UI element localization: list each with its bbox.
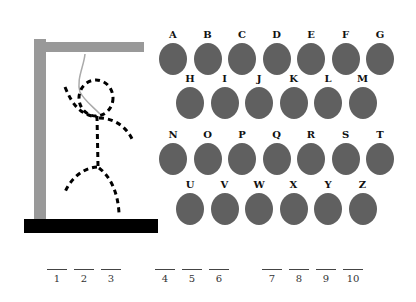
slot-underline bbox=[262, 269, 282, 270]
letter-button[interactable] bbox=[314, 193, 342, 225]
letter-key-k[interactable]: K bbox=[279, 72, 309, 119]
letter-key-z[interactable]: Z bbox=[348, 178, 378, 225]
letter-button[interactable] bbox=[228, 43, 256, 75]
letter-label: G bbox=[365, 28, 395, 41]
letter-key-x[interactable]: X bbox=[279, 178, 309, 225]
letter-key-h[interactable]: H bbox=[175, 72, 205, 119]
stick-leg-right bbox=[99, 168, 119, 213]
slot-underline bbox=[343, 269, 363, 270]
letter-button[interactable] bbox=[228, 143, 256, 175]
letter-label: N bbox=[158, 128, 188, 141]
letter-button[interactable] bbox=[245, 87, 273, 119]
letter-key-e[interactable]: E bbox=[296, 28, 326, 75]
letter-key-r[interactable]: R bbox=[296, 128, 326, 175]
letter-key-t[interactable]: T bbox=[365, 128, 395, 175]
letter-key-c[interactable]: C bbox=[227, 28, 257, 75]
letter-label: Q bbox=[262, 128, 292, 141]
letter-label: R bbox=[296, 128, 326, 141]
letter-button[interactable] bbox=[349, 193, 377, 225]
letter-button[interactable] bbox=[263, 143, 291, 175]
letter-label: I bbox=[210, 72, 240, 85]
letter-button[interactable] bbox=[314, 87, 342, 119]
answer-slot: 3 bbox=[101, 269, 121, 284]
slot-underline bbox=[316, 269, 336, 270]
letter-label: U bbox=[175, 178, 205, 191]
letter-key-m[interactable]: M bbox=[348, 72, 378, 119]
gallows-base bbox=[24, 219, 158, 233]
slot-underline bbox=[101, 269, 121, 270]
slot-number: 4 bbox=[155, 273, 175, 284]
letter-button[interactable] bbox=[297, 43, 325, 75]
letter-label: W bbox=[244, 178, 274, 191]
letter-button[interactable] bbox=[211, 193, 239, 225]
letter-button[interactable] bbox=[194, 143, 222, 175]
letter-button[interactable] bbox=[159, 143, 187, 175]
letter-key-j[interactable]: J bbox=[244, 72, 274, 119]
letter-key-a[interactable]: A bbox=[158, 28, 188, 75]
letter-key-y[interactable]: Y bbox=[313, 178, 343, 225]
letter-key-w[interactable]: W bbox=[244, 178, 274, 225]
letter-label: S bbox=[331, 128, 361, 141]
letter-label: M bbox=[348, 72, 378, 85]
letter-key-b[interactable]: B bbox=[193, 28, 223, 75]
letter-label: O bbox=[193, 128, 223, 141]
slot-number: 7 bbox=[262, 273, 282, 284]
letter-label: H bbox=[175, 72, 205, 85]
letter-button[interactable] bbox=[176, 193, 204, 225]
letter-button[interactable] bbox=[349, 87, 377, 119]
letter-key-q[interactable]: Q bbox=[262, 128, 292, 175]
stick-leg-left bbox=[65, 167, 97, 192]
letter-button[interactable] bbox=[366, 143, 394, 175]
answer-slot: 9 bbox=[316, 269, 336, 284]
letter-label: L bbox=[313, 72, 343, 85]
slot-number: 5 bbox=[182, 273, 202, 284]
slot-underline bbox=[289, 269, 309, 270]
letter-label: K bbox=[279, 72, 309, 85]
letter-button[interactable] bbox=[332, 43, 360, 75]
gallows-beam bbox=[38, 42, 144, 52]
letter-label: Z bbox=[348, 178, 378, 191]
letter-label: A bbox=[158, 28, 188, 41]
letter-key-d[interactable]: D bbox=[262, 28, 292, 75]
letter-button[interactable] bbox=[366, 43, 394, 75]
letter-key-i[interactable]: I bbox=[210, 72, 240, 119]
letter-key-v[interactable]: V bbox=[210, 178, 240, 225]
letter-label: T bbox=[365, 128, 395, 141]
answer-slot: 4 bbox=[155, 269, 175, 284]
letter-button[interactable] bbox=[297, 143, 325, 175]
letter-label: E bbox=[296, 28, 326, 41]
answer-slot: 10 bbox=[343, 269, 363, 284]
letter-label: C bbox=[227, 28, 257, 41]
letter-key-l[interactable]: L bbox=[313, 72, 343, 119]
letter-button[interactable] bbox=[280, 193, 308, 225]
slot-underline bbox=[47, 269, 67, 270]
letter-button[interactable] bbox=[159, 43, 187, 75]
stick-body bbox=[97, 116, 98, 166]
rope bbox=[79, 54, 100, 114]
slot-underline bbox=[74, 269, 94, 270]
letter-button[interactable] bbox=[211, 87, 239, 119]
letter-label: J bbox=[244, 72, 274, 85]
letter-label: P bbox=[227, 128, 257, 141]
letter-key-s[interactable]: S bbox=[331, 128, 361, 175]
letter-label: D bbox=[262, 28, 292, 41]
answer-slot: 6 bbox=[209, 269, 229, 284]
letter-button[interactable] bbox=[176, 87, 204, 119]
letter-key-o[interactable]: O bbox=[193, 128, 223, 175]
letter-button[interactable] bbox=[263, 43, 291, 75]
letter-button[interactable] bbox=[245, 193, 273, 225]
letter-button[interactable] bbox=[280, 87, 308, 119]
slot-number: 8 bbox=[289, 273, 309, 284]
letter-key-p[interactable]: P bbox=[227, 128, 257, 175]
letter-label: X bbox=[279, 178, 309, 191]
letter-key-n[interactable]: N bbox=[158, 128, 188, 175]
letter-key-u[interactable]: U bbox=[175, 178, 205, 225]
answer-slot: 2 bbox=[74, 269, 94, 284]
letter-label: Y bbox=[313, 178, 343, 191]
slot-number: 2 bbox=[74, 273, 94, 284]
letter-key-f[interactable]: F bbox=[331, 28, 361, 75]
letter-button[interactable] bbox=[194, 43, 222, 75]
letter-key-g[interactable]: G bbox=[365, 28, 395, 75]
letter-button[interactable] bbox=[332, 143, 360, 175]
answer-slot: 1 bbox=[47, 269, 67, 284]
